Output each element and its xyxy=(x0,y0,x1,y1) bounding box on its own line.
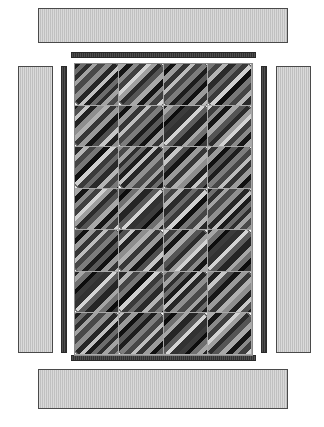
quilt-block xyxy=(119,64,163,106)
quilt-block xyxy=(164,313,208,355)
striped-diamond xyxy=(75,230,118,271)
block-clip xyxy=(75,272,118,313)
left-outer-border xyxy=(18,66,53,353)
quilt-block xyxy=(75,313,119,355)
quilt-block xyxy=(75,106,119,148)
quilt-block xyxy=(164,64,208,106)
striped-diamond xyxy=(208,313,251,354)
block-clip xyxy=(164,189,207,230)
right-inner-border xyxy=(261,66,267,353)
striped-diamond xyxy=(164,189,207,230)
quilt-block xyxy=(164,106,208,148)
striped-diamond xyxy=(164,230,207,271)
striped-diamond xyxy=(208,272,251,313)
quilt-block xyxy=(119,106,163,148)
block-clip xyxy=(119,313,162,354)
block-clip xyxy=(208,64,251,105)
block-clip xyxy=(164,147,207,188)
striped-diamond xyxy=(119,147,162,188)
quilt-block xyxy=(208,106,252,148)
quilt-diagram-canvas xyxy=(0,0,324,427)
striped-diamond xyxy=(119,106,162,147)
quilt-block xyxy=(208,64,252,106)
block-clip xyxy=(164,230,207,271)
striped-diamond xyxy=(208,106,251,147)
block-clip xyxy=(164,272,207,313)
bottom-outer-border xyxy=(38,369,288,409)
block-clip xyxy=(119,64,162,105)
quilt-block xyxy=(119,272,163,314)
striped-diamond xyxy=(119,272,162,313)
striped-diamond xyxy=(119,230,162,271)
block-clip xyxy=(75,313,118,354)
striped-diamond xyxy=(164,272,207,313)
striped-diamond xyxy=(75,106,118,147)
quilt-block-grid xyxy=(75,64,252,355)
block-clip xyxy=(208,147,251,188)
striped-diamond xyxy=(119,64,162,105)
striped-diamond xyxy=(75,313,118,354)
quilt-block xyxy=(208,272,252,314)
block-clip xyxy=(164,313,207,354)
striped-diamond xyxy=(164,106,207,147)
striped-diamond xyxy=(208,64,251,105)
striped-diamond xyxy=(208,230,251,271)
left-inner-border xyxy=(61,66,67,353)
quilt-block xyxy=(119,189,163,231)
block-clip xyxy=(208,272,251,313)
striped-diamond xyxy=(119,189,162,230)
block-clip xyxy=(208,230,251,271)
quilt-block xyxy=(119,313,163,355)
striped-diamond xyxy=(164,64,207,105)
block-clip xyxy=(164,64,207,105)
block-clip xyxy=(119,230,162,271)
striped-diamond xyxy=(119,313,162,354)
quilt-block xyxy=(208,313,252,355)
quilt-block xyxy=(164,189,208,231)
striped-diamond xyxy=(164,313,207,354)
striped-diamond xyxy=(75,64,118,105)
block-clip xyxy=(208,189,251,230)
quilt-block xyxy=(75,272,119,314)
block-clip xyxy=(75,64,118,105)
quilt-block xyxy=(119,230,163,272)
quilt-block xyxy=(75,147,119,189)
striped-diamond xyxy=(164,147,207,188)
top-inner-border xyxy=(71,52,256,58)
striped-diamond xyxy=(208,189,251,230)
quilt-block xyxy=(75,189,119,231)
block-clip xyxy=(164,106,207,147)
block-clip xyxy=(119,189,162,230)
block-clip xyxy=(208,313,251,354)
block-clip xyxy=(75,189,118,230)
quilt-block xyxy=(208,147,252,189)
block-clip xyxy=(208,106,251,147)
block-clip xyxy=(75,230,118,271)
quilt-block xyxy=(208,230,252,272)
striped-diamond xyxy=(75,189,118,230)
quilt-block xyxy=(164,272,208,314)
quilt-block xyxy=(164,147,208,189)
quilt-block xyxy=(208,189,252,231)
striped-diamond xyxy=(75,272,118,313)
block-clip xyxy=(75,147,118,188)
block-clip xyxy=(75,106,118,147)
quilt-block xyxy=(164,230,208,272)
right-outer-border xyxy=(276,66,311,353)
striped-diamond xyxy=(75,147,118,188)
block-clip xyxy=(119,106,162,147)
quilt-center-panel xyxy=(74,63,253,356)
quilt-block xyxy=(119,147,163,189)
top-outer-border xyxy=(38,8,288,43)
quilt-block xyxy=(75,230,119,272)
block-clip xyxy=(119,147,162,188)
striped-diamond xyxy=(208,147,251,188)
block-clip xyxy=(119,272,162,313)
quilt-block xyxy=(75,64,119,106)
